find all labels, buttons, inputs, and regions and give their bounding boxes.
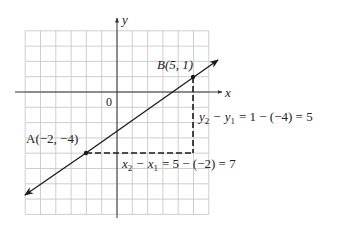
point-b-label: B(5, 1) — [157, 57, 193, 72]
rise-annotation: y2−y1= 1 − (−4) = 5 — [197, 109, 313, 126]
origin-label: 0 — [106, 95, 112, 109]
point-a — [84, 151, 88, 155]
coordinate-diagram: x y 0 B(5, 1) A(−2, −4) y2−y1= 1 − (−4) … — [0, 0, 346, 232]
point-a-label: A(−2, −4) — [26, 131, 78, 146]
point-b — [191, 75, 195, 79]
y-axis-label: y — [120, 12, 128, 27]
run-annotation: x2−x1= 5 − (−2) = 7 — [121, 156, 236, 173]
x-axis-label: x — [224, 85, 231, 100]
